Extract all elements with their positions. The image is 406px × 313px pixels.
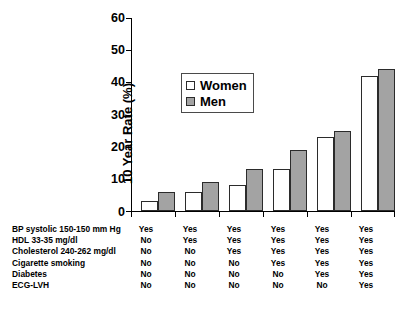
cell-bp-4: Yes bbox=[263, 224, 293, 235]
white-square-swatch-icon bbox=[186, 81, 195, 90]
cell-smoke-3: No bbox=[219, 258, 249, 269]
x-tick-mark-2 bbox=[219, 212, 220, 217]
cell-bp-2: Yes bbox=[175, 224, 205, 235]
y-tick-label-40: 40 bbox=[99, 76, 125, 89]
cell-chol-2: No bbox=[175, 246, 205, 257]
row-label-ecg-lvh: ECG-LVH bbox=[12, 280, 49, 291]
chart-legend: Women Men bbox=[181, 73, 254, 113]
row-label-cigarette-smoking: Cigarette smoking bbox=[12, 258, 85, 269]
row-label-diabetes: Diabetes bbox=[12, 269, 47, 280]
bar-men-6 bbox=[378, 69, 395, 211]
cell-ecg-6: Yes bbox=[351, 280, 381, 291]
cell-diab-4: No bbox=[263, 269, 293, 280]
y-tick-label-0: 0 bbox=[99, 206, 125, 219]
row-label-hdl: HDL 33-35 mg/dl bbox=[12, 235, 77, 246]
x-tick-mark-6 bbox=[394, 212, 395, 217]
cell-hdl-5: Yes bbox=[307, 235, 337, 246]
cell-hdl-4: Yes bbox=[263, 235, 293, 246]
cell-hdl-2: Yes bbox=[175, 235, 205, 246]
table-row: BP systolic 150-150 mm Hg Yes Yes Yes Ye… bbox=[0, 224, 406, 235]
cell-smoke-4: Yes bbox=[263, 258, 293, 269]
cell-diab-2: No bbox=[175, 269, 205, 280]
bar-women-4 bbox=[273, 169, 290, 211]
cell-chol-4: Yes bbox=[263, 246, 293, 257]
cell-chol-3: Yes bbox=[219, 246, 249, 257]
y-tick-label-50: 50 bbox=[99, 44, 125, 57]
cell-diab-6: Yes bbox=[351, 269, 381, 280]
cell-chol-1: No bbox=[131, 246, 161, 257]
table-row: HDL 33-35 mg/dl No Yes Yes Yes Yes Yes bbox=[0, 235, 406, 246]
cell-ecg-5: No bbox=[307, 280, 337, 291]
bar-chart-figure: 10 Year Rate (%) 60 50 40 30 20 10 0 bbox=[0, 0, 406, 313]
table-row: Cholesterol 240-262 mg/dl No No Yes Yes … bbox=[0, 246, 406, 257]
y-tick-label-10: 10 bbox=[99, 173, 125, 186]
plot-area bbox=[131, 18, 394, 211]
cell-ecg-2: No bbox=[175, 280, 205, 291]
cell-ecg-3: No bbox=[219, 280, 249, 291]
x-tick-mark-5 bbox=[351, 212, 352, 217]
legend-label-women: Women bbox=[200, 79, 247, 92]
cell-hdl-1: No bbox=[131, 235, 161, 246]
cell-hdl-3: Yes bbox=[219, 235, 249, 246]
cell-bp-6: Yes bbox=[351, 224, 381, 235]
x-tick-mark-0 bbox=[131, 212, 132, 217]
legend-item-women: Women bbox=[186, 77, 247, 93]
bar-men-5 bbox=[334, 131, 351, 211]
row-label-cholesterol: Cholesterol 240-262 mg/dl bbox=[12, 246, 116, 257]
bar-women-5 bbox=[317, 137, 334, 211]
bar-group-6 bbox=[361, 18, 395, 211]
cell-hdl-6: Yes bbox=[351, 235, 381, 246]
bar-women-6 bbox=[361, 76, 378, 211]
bar-women-1 bbox=[141, 201, 158, 211]
bar-group-3 bbox=[229, 18, 263, 211]
cell-smoke-6: Yes bbox=[351, 258, 381, 269]
bar-men-4 bbox=[290, 150, 307, 211]
cell-bp-5: Yes bbox=[307, 224, 337, 235]
x-tick-mark-3 bbox=[263, 212, 264, 217]
cell-ecg-4: No bbox=[263, 280, 293, 291]
bar-group-1 bbox=[141, 18, 175, 211]
cell-chol-5: Yes bbox=[307, 246, 337, 257]
cell-smoke-5: Yes bbox=[307, 258, 337, 269]
table-row: Diabetes No No No No Yes Yes bbox=[0, 269, 406, 280]
bar-women-3 bbox=[229, 185, 246, 211]
cell-smoke-2: No bbox=[175, 258, 205, 269]
cell-smoke-1: No bbox=[131, 258, 161, 269]
cell-diab-5: Yes bbox=[307, 269, 337, 280]
gray-square-swatch-icon bbox=[186, 97, 195, 106]
y-tick-label-30: 30 bbox=[99, 109, 125, 122]
cell-diab-3: No bbox=[219, 269, 249, 280]
row-label-bp-systolic: BP systolic 150-150 mm Hg bbox=[12, 224, 121, 235]
legend-label-men: Men bbox=[200, 95, 226, 108]
legend-item-men: Men bbox=[186, 93, 247, 109]
risk-factor-table: BP systolic 150-150 mm Hg Yes Yes Yes Ye… bbox=[0, 224, 406, 291]
bar-men-2 bbox=[202, 182, 219, 211]
x-tick-mark-4 bbox=[307, 212, 308, 217]
bar-group-2 bbox=[185, 18, 219, 211]
bar-women-2 bbox=[185, 192, 202, 211]
cell-bp-3: Yes bbox=[219, 224, 249, 235]
cell-ecg-1: No bbox=[131, 280, 161, 291]
bar-men-3 bbox=[246, 169, 263, 211]
bar-men-1 bbox=[158, 192, 175, 211]
cell-diab-1: No bbox=[131, 269, 161, 280]
cell-bp-1: Yes bbox=[131, 224, 161, 235]
y-tick-label-20: 20 bbox=[99, 141, 125, 154]
bar-group-4 bbox=[273, 18, 307, 211]
x-tick-mark-1 bbox=[175, 212, 176, 217]
bar-group-5 bbox=[317, 18, 351, 211]
table-row: Cigarette smoking No No No Yes Yes Yes bbox=[0, 258, 406, 269]
y-tick-label-60: 60 bbox=[99, 12, 125, 25]
table-row: ECG-LVH No No No No No Yes bbox=[0, 280, 406, 291]
cell-chol-6: Yes bbox=[351, 246, 381, 257]
